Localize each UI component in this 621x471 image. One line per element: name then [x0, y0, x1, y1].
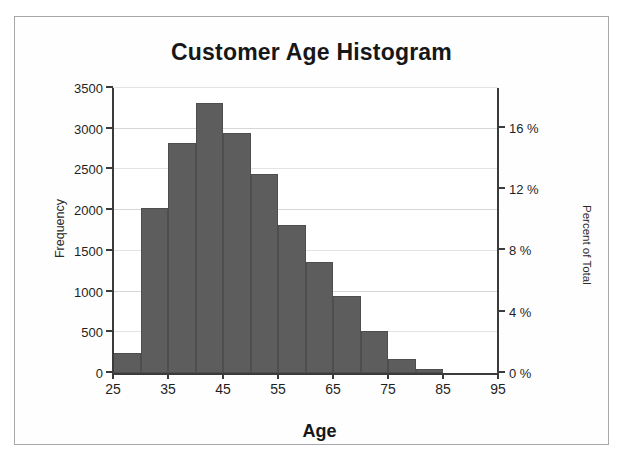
- histogram-bar: [278, 225, 306, 373]
- histogram-bar: [306, 262, 334, 373]
- plot-area: 0500100015002000250030003500 0 %4 %8 %12…: [113, 88, 498, 373]
- histogram-bar: [168, 143, 196, 373]
- y-tick-label-right: 16 %: [509, 120, 539, 135]
- y-tick-right: [498, 187, 505, 189]
- y-tick-label-right: 12 %: [509, 182, 539, 197]
- histogram-bar: [141, 208, 169, 373]
- x-tick-label: 75: [380, 381, 396, 397]
- chart-title: Customer Age Histogram: [15, 39, 608, 66]
- x-tick-label: 65: [325, 381, 341, 397]
- histogram-bar: [388, 359, 416, 373]
- y-tick-right: [498, 126, 505, 128]
- histogram-bar: [223, 133, 251, 373]
- y-tick-label-left: 2500: [74, 162, 103, 177]
- x-axis-spine: [112, 373, 499, 375]
- y-axis-label-right: Percent of Total: [581, 205, 593, 285]
- y-tick-label-left: 2000: [74, 203, 103, 218]
- y-tick-right: [498, 371, 505, 373]
- y-tick-label-right: 0 %: [509, 366, 531, 381]
- y-tick-right: [498, 248, 505, 250]
- x-tick-label: 95: [490, 381, 506, 397]
- y-tick-label-left: 3000: [74, 121, 103, 136]
- y-axis-left-spine: [112, 88, 114, 373]
- histogram-bar: [196, 103, 224, 373]
- chart-frame: Customer Age Histogram Frequency Percent…: [14, 16, 609, 445]
- y-tick-label-left: 500: [81, 325, 103, 340]
- y-tick-label-right: 8 %: [509, 243, 531, 258]
- histogram-bar: [251, 174, 279, 374]
- y-tick-label-left: 3500: [74, 81, 103, 96]
- y-tick-label-left: 0: [96, 366, 103, 381]
- histogram-bar: [361, 331, 389, 373]
- x-tick-label: 85: [435, 381, 451, 397]
- y-axis-right-spine: [497, 88, 499, 373]
- y-axis-label-left: Frequency: [53, 199, 67, 258]
- y-tick-label-left: 1000: [74, 284, 103, 299]
- y-tick-label-right: 4 %: [509, 304, 531, 319]
- x-axis-label: Age: [127, 421, 512, 442]
- x-tick-label: 45: [215, 381, 231, 397]
- x-tick-label: 55: [270, 381, 286, 397]
- y-tick-right: [498, 310, 505, 312]
- histogram-bar: [113, 353, 141, 373]
- x-tick-label: 35: [160, 381, 176, 397]
- y-tick-label-left: 1500: [74, 243, 103, 258]
- x-tick-label: 25: [105, 381, 121, 397]
- histogram-bar: [333, 296, 361, 373]
- histogram-bars: [113, 88, 498, 373]
